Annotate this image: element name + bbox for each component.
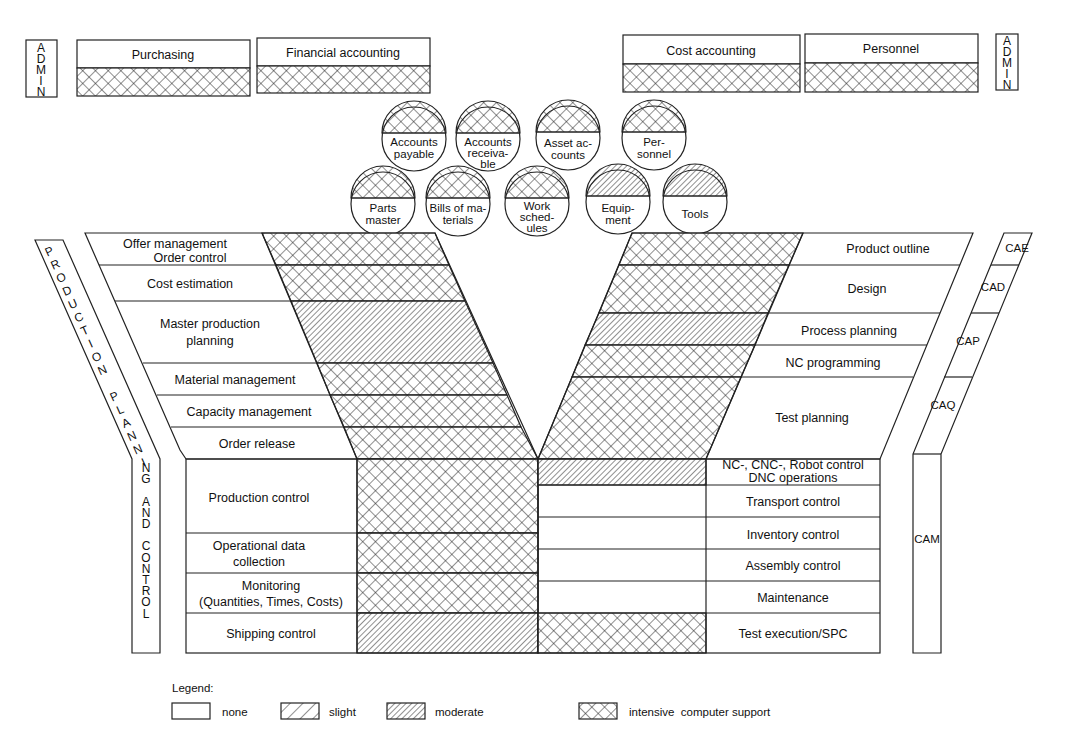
svg-text:Order release: Order release [219,437,295,451]
svg-text:Material management: Material management [175,373,296,387]
svg-text:DNC operations: DNC operations [749,471,838,485]
db-labels-row2: Parts master Bills of ma- terials Work s… [365,200,708,234]
svg-text:sonnel: sonnel [637,148,671,160]
svg-text:collection: collection [233,555,285,569]
cax-upper-funnel [538,233,973,459]
svg-text:intensive computer support: intensive computer support [629,706,771,718]
svg-text:CAE: CAE [1005,242,1029,254]
svg-text:Maintenance: Maintenance [757,591,829,605]
svg-text:Capacity management: Capacity management [186,405,312,419]
svg-text:Offer management: Offer management [123,237,228,251]
svg-text:NC programming: NC programming [785,356,880,370]
svg-text:CAP: CAP [956,335,980,347]
svg-text:Order control: Order control [154,251,227,265]
svg-text:Monitoring: Monitoring [242,579,300,593]
svg-text:N: N [1003,78,1012,92]
svg-text:L: L [143,607,150,621]
svg-text:Per-: Per- [643,136,665,148]
svg-text:CAD: CAD [981,281,1005,293]
svg-text:Process planning: Process planning [801,324,897,338]
svg-text:none: none [222,706,248,718]
svg-text:Parts: Parts [370,202,397,214]
svg-text:Product outline: Product outline [846,242,929,256]
svg-text:master: master [365,214,400,226]
svg-text:(Quantities, Times, Costs): (Quantities, Times, Costs) [199,595,343,609]
svg-text:Transport control: Transport control [746,495,840,509]
svg-text:NC-, CNC-, Robot control: NC-, CNC-, Robot control [722,458,864,472]
svg-text:Shipping control: Shipping control [226,627,316,641]
svg-text:Accounts: Accounts [390,136,438,148]
svg-text:Assembly control: Assembly control [745,559,840,573]
svg-text:Cost estimation: Cost estimation [147,277,233,291]
svg-text:Test planning: Test planning [775,411,849,425]
svg-text:D: D [142,517,151,531]
svg-text:payable: payable [394,148,434,160]
personnel-label: Personnel [863,42,919,56]
ppc-upper-funnel [85,233,538,459]
svg-text:N: N [37,85,46,99]
svg-text:terials: terials [443,214,474,226]
ppc-lower-labels: Production control Operational data coll… [199,491,343,641]
svg-text:CAQ: CAQ [931,399,956,411]
diagram-canvas: ADMIN ADMIN Purchasing Financial account… [0,0,1078,752]
cax-side-banner [913,233,1032,653]
svg-text:Master production: Master production [160,317,260,331]
admin-right-letters: ADMIN [1002,34,1012,92]
financial-accounting-label: Financial accounting [286,46,400,60]
svg-text:Equip-: Equip- [601,202,634,214]
cost-accounting-label: Cost accounting [666,44,756,58]
cax-lower-block [538,459,880,653]
db-tools [663,164,727,234]
svg-text:Asset ac-: Asset ac- [544,137,592,149]
svg-text:Operational data: Operational data [213,539,305,553]
svg-text:ment: ment [605,214,631,226]
purchasing-label: Purchasing [132,48,195,62]
admin-left-letters: ADMIN [36,41,46,99]
svg-text:Inventory control: Inventory control [747,528,839,542]
svg-text:Test execution/SPC: Test execution/SPC [738,627,847,641]
svg-text:Production control: Production control [209,491,310,505]
svg-text:planning: planning [186,334,233,348]
svg-text:ules: ules [526,222,547,234]
svg-text:slight: slight [329,706,357,718]
svg-text:Bills of ma-: Bills of ma- [430,202,487,214]
svg-text:moderate: moderate [435,706,484,718]
svg-text:Tools: Tools [682,208,709,220]
cax-upper-labels: Product outline Design Process planning … [775,242,930,425]
svg-text:ble: ble [480,158,495,170]
svg-text:counts: counts [551,149,585,161]
svg-text:CAM: CAM [914,533,940,545]
legend-title: Legend: [172,682,214,694]
svg-text:Design: Design [848,282,887,296]
svg-text:G: G [141,472,150,486]
